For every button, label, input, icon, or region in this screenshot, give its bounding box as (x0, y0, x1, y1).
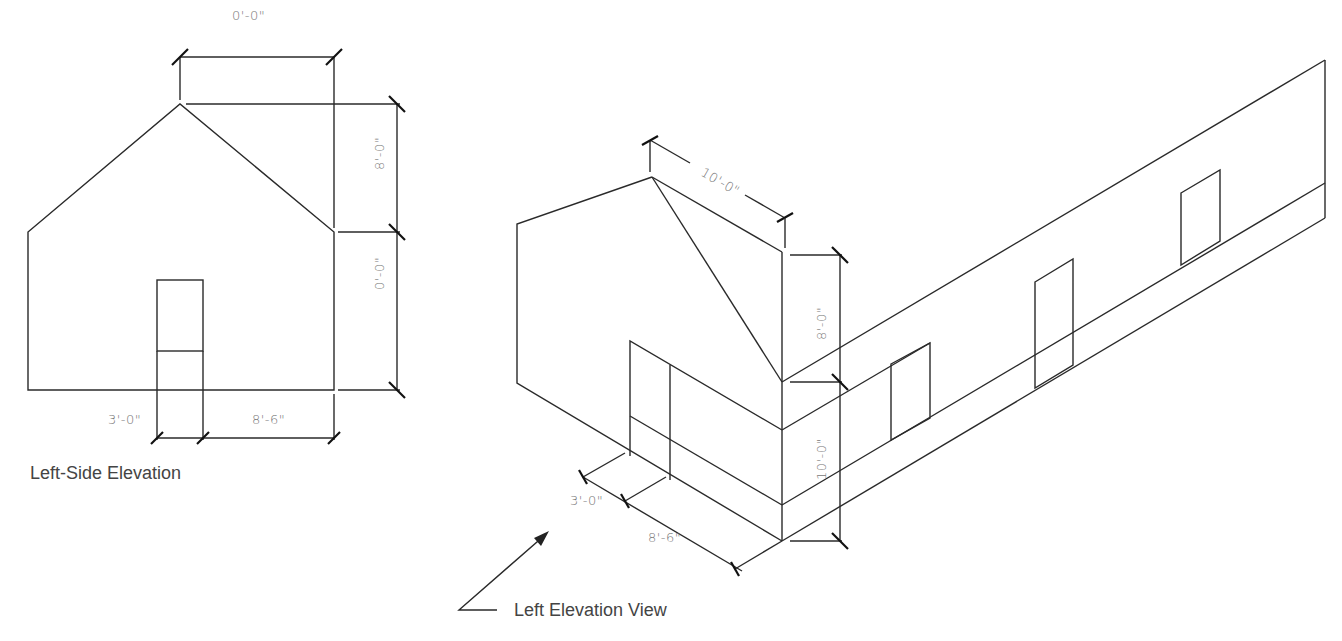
house-outline (28, 104, 334, 390)
window-2 (1181, 170, 1220, 265)
isometric-view (459, 60, 1325, 610)
door-opening (157, 280, 203, 351)
dim-iso-lower-height: 10'-0" (814, 438, 829, 480)
dim-lower-height: 0'-0" (372, 257, 387, 290)
caption-left-elevation-view: Left Elevation View (514, 600, 667, 621)
window-1 (891, 343, 930, 440)
dim-door-width: 3'-0" (108, 412, 141, 427)
dim-iso-upper-height: 8'-0" (814, 307, 829, 340)
dim-iso-offset: 8'-6" (648, 530, 681, 545)
left-side-elevation (28, 49, 405, 444)
door-side (1035, 259, 1073, 388)
dim-upper-height: 8'-0" (372, 137, 387, 170)
dim-ridge-width: 10'-0" (699, 165, 743, 199)
caption-left-side-elevation: Left-Side Elevation (30, 463, 181, 484)
dim-top-width: 0'-0" (232, 8, 265, 23)
dim-right-offset: 8'-6" (252, 412, 285, 427)
drawing-canvas: 0'-0" 8'-0" 0'-0" 3'-0" 8'-6" (0, 0, 1342, 641)
dim-iso-door-width: 3'-0" (570, 493, 603, 508)
